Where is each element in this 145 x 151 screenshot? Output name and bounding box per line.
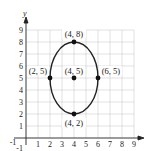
y-tick-labels: 9 8 7 6 5 4 3 2 1 -1 — [16, 26, 23, 151]
svg-text:3: 3 — [19, 98, 23, 107]
svg-text:2: 2 — [19, 110, 23, 119]
point-bottom — [72, 112, 77, 117]
svg-text:8: 8 — [120, 140, 124, 149]
point-top — [72, 40, 77, 45]
x-tick-labels: -1 1 2 3 4 5 6 7 8 9 — [10, 138, 136, 149]
label-center: (4, 5) — [65, 66, 84, 76]
svg-text:9: 9 — [132, 140, 136, 149]
point-left — [48, 76, 53, 81]
label-top: (4, 8) — [65, 29, 84, 39]
svg-text:-1: -1 — [16, 144, 23, 151]
label-left: (2, 5) — [29, 66, 48, 76]
svg-text:7: 7 — [108, 140, 112, 149]
svg-text:9: 9 — [19, 26, 23, 35]
ellipse-chart: y 9 8 7 6 5 4 3 2 1 -1 -1 1 2 3 4 5 6 7 … — [0, 0, 145, 151]
svg-text:2: 2 — [48, 140, 52, 149]
svg-text:1: 1 — [19, 122, 23, 131]
point-center — [72, 76, 77, 81]
svg-text:3: 3 — [60, 140, 64, 149]
svg-text:6: 6 — [19, 62, 23, 71]
svg-text:-1: -1 — [10, 138, 17, 147]
svg-text:5: 5 — [19, 74, 23, 83]
point-right — [96, 76, 101, 81]
label-bottom: (4, 2) — [65, 118, 84, 128]
svg-text:4: 4 — [72, 140, 76, 149]
svg-text:7: 7 — [19, 50, 23, 59]
svg-text:8: 8 — [19, 38, 23, 47]
svg-text:5: 5 — [84, 140, 88, 149]
y-axis-label: y — [22, 9, 27, 18]
svg-text:6: 6 — [96, 140, 100, 149]
svg-text:4: 4 — [19, 86, 23, 95]
label-right: (6, 5) — [102, 66, 121, 76]
svg-text:1: 1 — [36, 140, 40, 149]
